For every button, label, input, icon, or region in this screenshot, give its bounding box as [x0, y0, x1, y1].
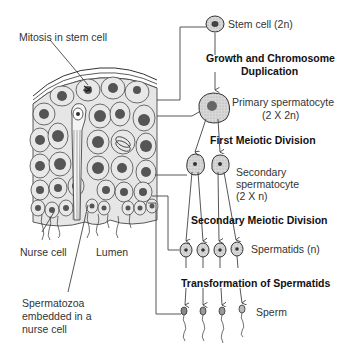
- label-lumen: Lumen: [96, 246, 128, 258]
- label-stem-cell: Stem cell (2n): [228, 18, 293, 30]
- label-secondary-spermatocyte-line1: Secondary: [236, 166, 286, 178]
- label-secondary-spermatocyte-line2: spermatocyte: [236, 178, 299, 190]
- label-spermatids: Spermatids (n): [251, 243, 320, 255]
- label-primary-spermatocyte-line1: Primary spermatocyte: [232, 96, 334, 108]
- label-spermatozoa-line2: embedded in a: [22, 310, 91, 322]
- seminiferous-tubule-section: [30, 68, 158, 240]
- stage-growth-line1: Growth and Chromosome: [206, 52, 335, 64]
- label-spermatozoa-line3: nurse cell: [22, 323, 67, 335]
- label-nurse-cell: Nurse cell: [20, 246, 67, 258]
- stage-growth-line2: Duplication: [241, 65, 298, 77]
- label-secondary-spermatocyte-line3: (2 X n): [236, 190, 268, 202]
- label-spermatozoa-line1: Spermatozoa: [22, 297, 84, 309]
- label-sperm: Sperm: [256, 306, 287, 318]
- stage-secondary-meiotic-division: Secondary Meiotic Division: [191, 214, 328, 226]
- label-mitosis-in-stem-cell: Mitosis in stem cell: [19, 31, 107, 43]
- label-primary-spermatocyte-line2: (2 X 2n): [262, 109, 299, 121]
- spermatogenesis-diagram: Mitosis in stem cell Nurse cell Lumen Sp…: [0, 0, 350, 360]
- stage-first-meiotic-division: First Meiotic Division: [210, 134, 316, 146]
- stage-transformation-of-spermatids: Transformation of Spermatids: [181, 277, 330, 289]
